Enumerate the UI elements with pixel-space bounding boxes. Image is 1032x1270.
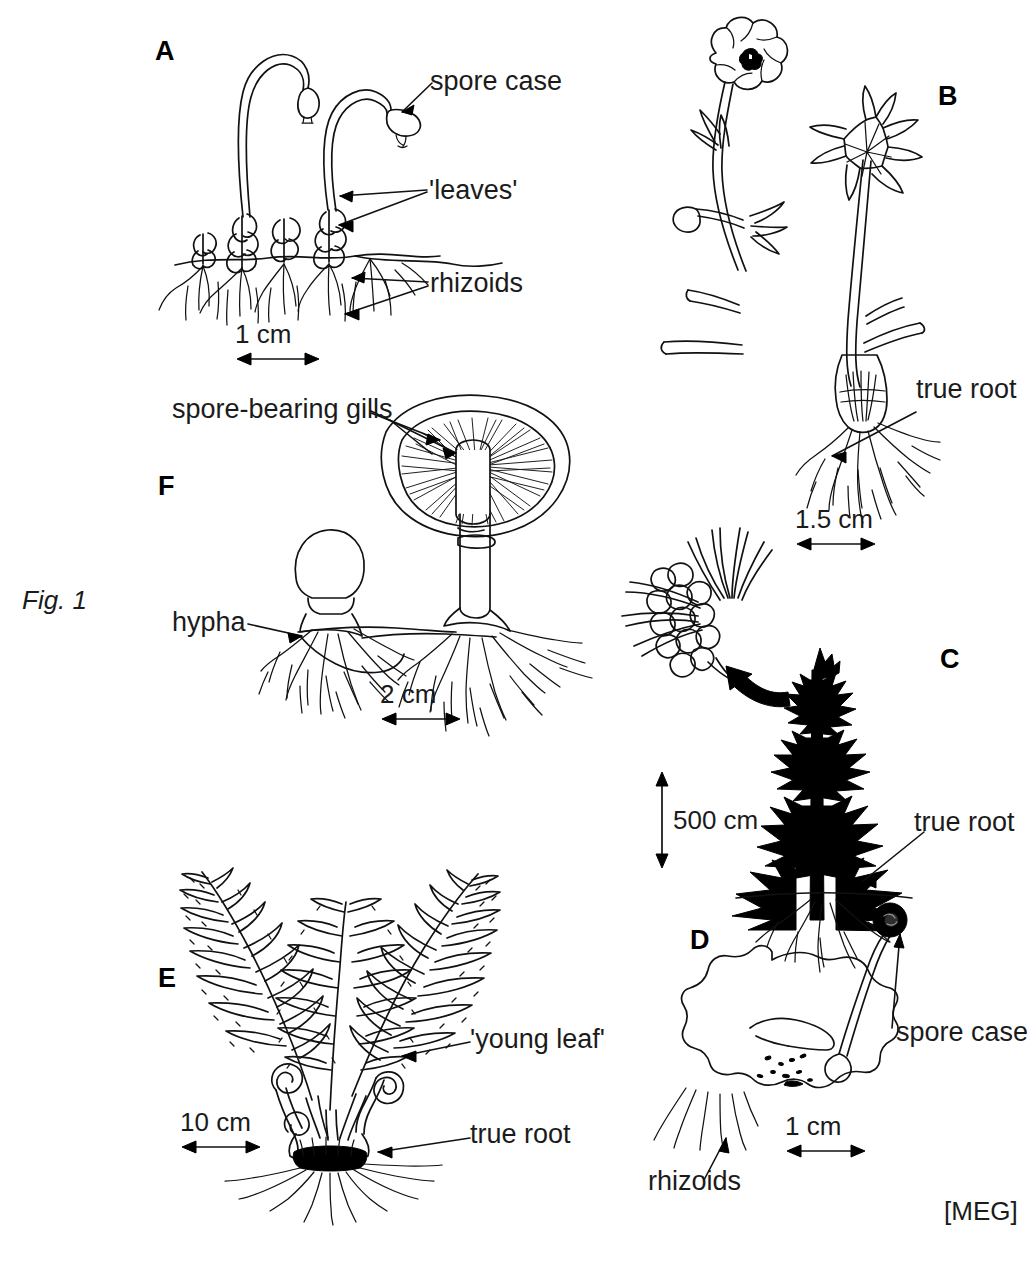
scale-label-A: 1 cm (235, 320, 321, 349)
liverwort-drawing (600, 890, 1032, 1210)
callout-young-leaf-E: 'young leaf' (470, 1025, 605, 1055)
figure-credit: [MEG] (944, 1196, 1018, 1227)
scale-bar-E: 10 cm (180, 1108, 262, 1157)
figure-label: Fig. 1 (22, 585, 87, 616)
scale-bar-A: 1 cm (235, 320, 321, 369)
scale-label-D: 1 cm (785, 1112, 867, 1141)
scale-arrow-A (235, 349, 321, 369)
scale-arrow-D (785, 1141, 867, 1161)
mushroom-drawing (140, 380, 610, 730)
panel-C: C (600, 520, 1030, 920)
scale-arrow-E (180, 1137, 262, 1157)
panel-D: D (600, 890, 1032, 1210)
scale-label-C: 500 cm (673, 806, 758, 835)
callout-hypha-F: hypha (172, 608, 246, 638)
scale-arrow-C (652, 770, 672, 870)
callout-true-root-B: true root (916, 375, 1017, 405)
scale-label-F: 2 cm (380, 680, 462, 709)
callout-spore-case-D: spore case (896, 1018, 1028, 1048)
callout-rhizoids-D: rhizoids (648, 1167, 741, 1197)
callout-spore-case-A: spore case (430, 67, 562, 97)
scale-label-E: 10 cm (180, 1108, 262, 1137)
scale-arrow-F (380, 709, 462, 729)
panel-F: F (140, 380, 610, 730)
scale-bar-C: 500 cm (652, 770, 758, 870)
scale-bar-F: 2 cm (380, 680, 462, 729)
callout-true-root-C: true root (914, 808, 1015, 838)
panel-A: A (140, 20, 610, 380)
callout-spore-bearing-gills-F: spore-bearing gills (172, 395, 393, 425)
panel-B: B (620, 20, 1020, 560)
panel-E: E (140, 760, 610, 1180)
figure-canvas: Fig. 1 A (0, 0, 1032, 1270)
callout-true-root-E: true root (470, 1120, 571, 1150)
scale-bar-D: 1 cm (785, 1112, 867, 1161)
flowering-plant-drawing (620, 20, 1020, 560)
callout-rhizoids-A: rhizoids (430, 269, 523, 299)
callout-leaves-A: 'leaves' (429, 176, 517, 206)
